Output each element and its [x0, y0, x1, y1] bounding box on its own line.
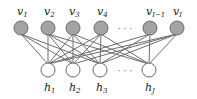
edges	[21, 34, 177, 64]
visible-layer: v1v2v3v4vI−1vI	[14, 5, 184, 35]
label-v4: v4	[97, 5, 108, 19]
hidden-node-hJ	[142, 63, 156, 77]
label-v3: v3	[69, 5, 80, 19]
label-h2: h2	[69, 81, 81, 95]
hidden-ellipsis: · · ·	[118, 66, 132, 76]
label-vI: vI	[173, 5, 182, 19]
edge-vI-h2	[73, 34, 177, 64]
label-vI-1: vI−1	[146, 5, 165, 19]
visible-ellipsis: · · ·	[118, 24, 132, 34]
hidden-node-h3	[93, 63, 107, 77]
rbm-diagram: v1v2v3v4vI−1vI h1h2h3hJ · · · · · ·	[0, 0, 197, 99]
edge-v1-h1	[21, 34, 48, 64]
visible-node-vI	[170, 21, 184, 35]
visible-node-v2	[41, 21, 55, 35]
visible-node-v1	[14, 21, 28, 35]
visible-node-v4	[94, 21, 108, 35]
visible-node-v3	[66, 21, 80, 35]
hidden-layer: h1h2h3hJ	[41, 63, 156, 95]
edge-vI-1-hJ	[149, 34, 150, 64]
label-hJ: hJ	[145, 81, 156, 95]
label-v1: v1	[17, 5, 28, 19]
hidden-node-h2	[66, 63, 80, 77]
label-h3: h3	[96, 81, 108, 95]
label-v2: v2	[44, 5, 55, 19]
visible-node-vI-1	[143, 21, 157, 35]
label-h1: h1	[44, 81, 56, 95]
hidden-node-h1	[41, 63, 55, 77]
